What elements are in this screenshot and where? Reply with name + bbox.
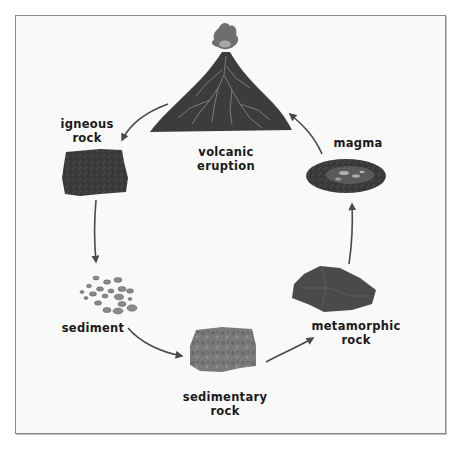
label-metamorphic-rock-line1: metamorphic — [308, 319, 404, 333]
label-igneous-rock-line2: rock — [52, 131, 122, 145]
label-metamorphic-rock: metamorphic rock — [308, 319, 404, 347]
label-igneous-rock: igneous rock — [52, 117, 122, 145]
label-sedimentary-rock: sedimentary rock — [180, 390, 270, 418]
metamorphic-rock-icon — [292, 266, 376, 312]
sediment-icon — [80, 276, 137, 314]
label-sediment-line1: sediment — [58, 321, 128, 335]
label-volcanic-eruption: volcanic eruption — [184, 145, 268, 173]
label-volcanic-eruption-line1: volcanic — [184, 145, 268, 159]
arrow-igneous-to-sediment — [95, 200, 97, 262]
label-sedimentary-rock-line1: sedimentary — [180, 390, 270, 404]
arrow-magma-to-volcano — [290, 114, 322, 154]
arrow-metamorphic-to-magma — [349, 204, 352, 264]
volcano-icon — [150, 23, 292, 132]
label-metamorphic-rock-line2: rock — [308, 333, 404, 347]
label-magma: magma — [330, 136, 386, 150]
label-sedimentary-rock-line2: rock — [180, 404, 270, 418]
label-volcanic-eruption-line2: eruption — [184, 159, 268, 173]
magma-icon — [306, 159, 386, 193]
rock-cycle-illustration — [0, 0, 457, 450]
igneous-rock-icon — [62, 149, 128, 196]
label-magma-line1: magma — [330, 136, 386, 150]
arrow-sediment-to-sedimentary — [128, 328, 182, 356]
label-igneous-rock-line1: igneous — [52, 117, 122, 131]
label-sediment: sediment — [58, 321, 128, 335]
arrow-sedimentary-to-metamorphic — [266, 338, 313, 362]
sedimentary-rock-icon — [190, 327, 256, 372]
